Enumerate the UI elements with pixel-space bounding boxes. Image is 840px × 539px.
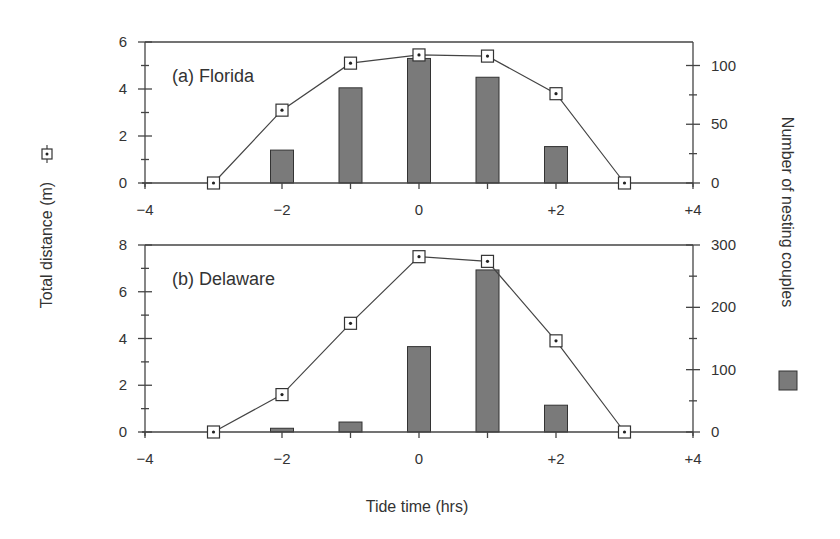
chart-panel-delaware: 024680100200300−4−20+2+4(b) Delaware [119, 236, 736, 467]
left-tick-label: 4 [119, 80, 127, 97]
x-tick-label: −2 [273, 450, 290, 467]
left-tick-label: 6 [119, 33, 127, 50]
right-axis-legend: Number of nesting couples [779, 117, 796, 307]
left-tick-label: 4 [119, 330, 127, 347]
panel-label: (a) Florida [172, 66, 255, 86]
svg-text:Total distance (m): Total distance (m) [38, 182, 55, 308]
bar [271, 150, 294, 183]
left-tick-label: 6 [119, 283, 127, 300]
svg-text:Number of nesting couples: Number of nesting couples [779, 117, 796, 307]
right-tick-label: 200 [711, 298, 736, 315]
left-tick-label: 0 [119, 174, 127, 191]
x-tick-label: +2 [547, 450, 564, 467]
tide-nesting-chart: 0246050100−4−20+2+4(a) Florida0246801002… [0, 0, 840, 539]
bar [476, 77, 499, 183]
left-tick-label: 2 [119, 376, 127, 393]
bar-series-nesting-couples [271, 270, 568, 432]
x-tick-label: −4 [136, 450, 153, 467]
bar [339, 422, 362, 432]
x-tick-label: +2 [547, 201, 564, 218]
right-tick-label: 0 [711, 423, 719, 440]
panel-label: (b) Delaware [172, 269, 275, 289]
right-tick-label: 50 [711, 115, 728, 132]
bar [408, 347, 431, 432]
bar [408, 58, 431, 183]
bar [339, 88, 362, 183]
x-tick-label: 0 [415, 450, 423, 467]
legend-bar-swatch-icon [779, 371, 797, 390]
legend-line-marker-icon [42, 145, 52, 163]
bar [545, 405, 568, 432]
left-axis-legend: Total distance (m) [38, 182, 55, 308]
bar [545, 147, 568, 183]
right-tick-label: 100 [711, 57, 736, 74]
right-tick-label: 100 [711, 361, 736, 378]
chart-panel-florida: 0246050100−4−20+2+4(a) Florida [119, 33, 736, 218]
right-tick-label: 300 [711, 236, 736, 253]
x-tick-label: +4 [684, 201, 701, 218]
x-tick-label: −2 [273, 201, 290, 218]
left-tick-label: 0 [119, 423, 127, 440]
x-tick-label: 0 [415, 201, 423, 218]
x-tick-label: −4 [136, 201, 153, 218]
x-axis-title: Tide time (hrs) [366, 498, 469, 515]
right-tick-label: 0 [711, 174, 719, 191]
bar [476, 270, 499, 432]
left-tick-label: 8 [119, 236, 127, 253]
bar-series-nesting-couples [271, 58, 568, 183]
left-tick-label: 2 [119, 127, 127, 144]
x-tick-label: +4 [684, 450, 701, 467]
